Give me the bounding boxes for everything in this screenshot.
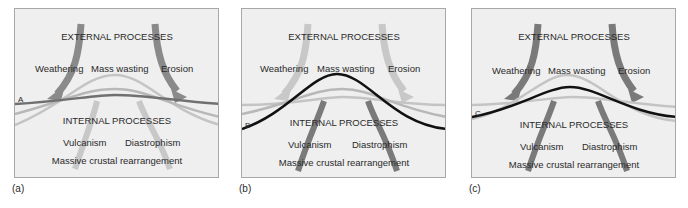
external-item-erosion: Erosion [388, 63, 420, 74]
panel-a: EXTERNAL PROCESSES Weathering Mass wasti… [14, 8, 219, 178]
external-heading: EXTERNAL PROCESSES [288, 31, 400, 42]
external-item-erosion: Erosion [618, 65, 650, 76]
external-item-erosion: Erosion [161, 63, 193, 74]
internal-footer: Massive crustal rearrangement [509, 159, 639, 170]
internal-item-vulcanism: Vulcanism [520, 141, 563, 152]
external-item-mass-wasting: Mass wasting [317, 63, 375, 74]
profile-line-c [472, 87, 676, 117]
internal-footer: Massive crustal rearrangement [279, 157, 409, 168]
external-item-weathering: Weathering [260, 63, 308, 74]
profile-label: B [245, 121, 250, 130]
external-item-mass-wasting: Mass wasting [91, 63, 149, 74]
profile-line-a [15, 95, 219, 104]
external-heading: EXTERNAL PROCESSES [61, 31, 173, 42]
internal-heading: INTERNAL PROCESSES [63, 115, 171, 126]
external-item-weathering: Weathering [492, 65, 540, 76]
internal-item-vulcanism: Vulcanism [288, 139, 331, 150]
internal-heading: INTERNAL PROCESSES [520, 119, 628, 130]
external-item-weathering: Weathering [35, 63, 83, 74]
internal-heading: INTERNAL PROCESSES [290, 117, 398, 128]
panel-c: EXTERNAL PROCESSES Weathering Mass wasti… [471, 8, 676, 178]
internal-footer: Massive crustal rearrangement [52, 155, 182, 166]
profile-label: C [475, 109, 481, 118]
internal-item-diastrophism: Diastrophism [352, 139, 407, 150]
external-heading: EXTERNAL PROCESSES [518, 31, 630, 42]
panel-c-label: (c) [469, 183, 481, 194]
external-item-mass-wasting: Mass wasting [548, 65, 606, 76]
internal-item-diastrophism: Diastrophism [582, 141, 637, 152]
panel-b: EXTERNAL PROCESSES Weathering Mass wasti… [241, 8, 446, 178]
panel-b-label: (b) [239, 183, 251, 194]
internal-item-vulcanism: Vulcanism [63, 137, 106, 148]
profile-label: A [18, 95, 23, 104]
internal-item-diastrophism: Diastrophism [125, 137, 180, 148]
panel-a-label: (a) [12, 183, 24, 194]
